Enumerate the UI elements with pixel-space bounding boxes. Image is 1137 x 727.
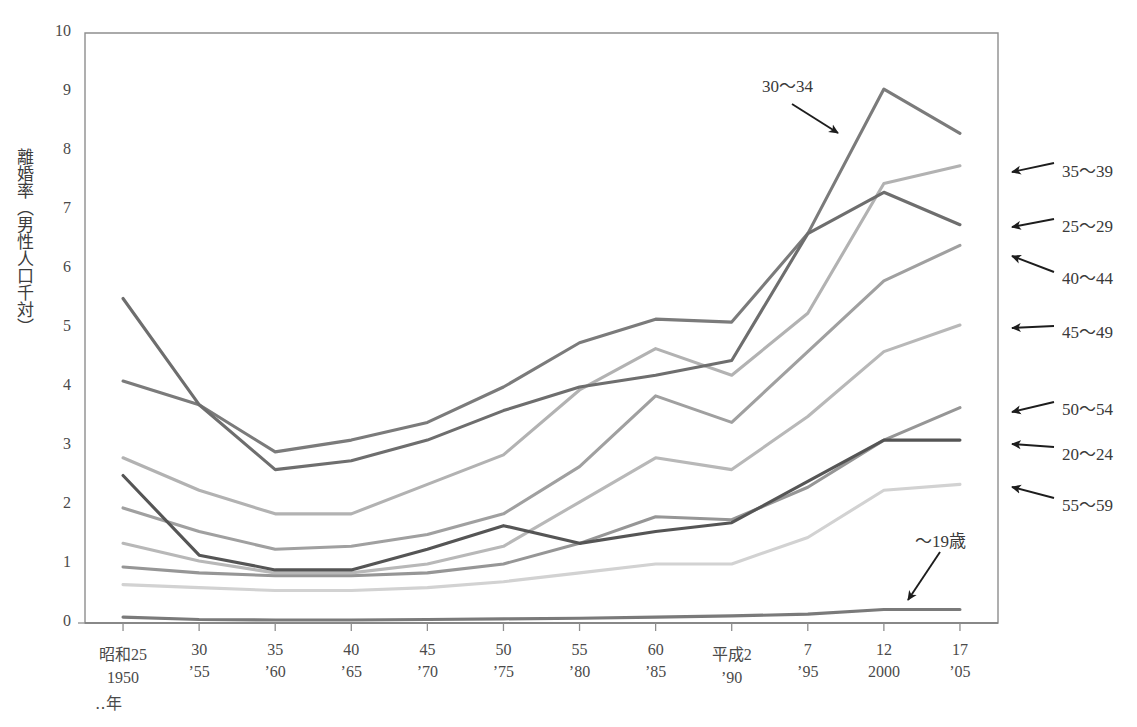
- leader-arrow: [1012, 402, 1054, 412]
- series-label-～19歳: ～19歳: [915, 527, 966, 552]
- axes-layer: [78, 33, 998, 631]
- series-label-30～34: 30～34: [762, 72, 813, 97]
- series-label-20～24: 20～24: [1062, 440, 1113, 465]
- x-tick-western-year: ’05: [915, 663, 1005, 681]
- series-label-50～54: 50～54: [1062, 395, 1113, 420]
- y-tick-label: 8: [37, 140, 71, 158]
- series-label-45～49: 45～49: [1062, 318, 1113, 343]
- y-tick-label: 3: [37, 435, 71, 453]
- x-tick-label: 17’05: [915, 641, 1005, 681]
- y-tick-label: 2: [37, 494, 71, 512]
- y-tick-label: 9: [37, 81, 71, 99]
- leader-arrow: [908, 552, 940, 600]
- chart-canvas: [0, 0, 1137, 727]
- leader-arrow: [1012, 444, 1054, 447]
- series-layer: [123, 89, 960, 620]
- divorce-rate-line-chart: 離婚率（男性人口千対） 012345678910 昭和25195030’5535…: [0, 0, 1137, 727]
- annotation-layer: [792, 104, 1054, 600]
- series-line: [123, 609, 960, 620]
- series-label-40～44: 40～44: [1062, 264, 1113, 289]
- y-tick-label: 5: [37, 317, 71, 335]
- series-line: [123, 192, 960, 469]
- series-label-35～39: 35～39: [1062, 157, 1113, 182]
- y-tick-label: 0: [37, 612, 71, 630]
- y-tick-label: 1: [37, 553, 71, 571]
- series-label-25～29: 25～29: [1062, 212, 1113, 237]
- leader-arrow: [1012, 256, 1054, 272]
- leader-arrow: [792, 104, 838, 133]
- y-tick-label: 10: [37, 22, 71, 40]
- leader-arrow: [1012, 487, 1054, 498]
- leader-arrow: [1012, 163, 1054, 172]
- leader-arrow: [1012, 219, 1054, 227]
- y-tick-label: 4: [37, 376, 71, 394]
- y-tick-label: 7: [37, 199, 71, 217]
- y-tick-label: 6: [37, 258, 71, 276]
- leader-arrow: [1012, 326, 1054, 328]
- axis-note: ‥年: [95, 690, 122, 714]
- x-tick-era: 17: [915, 641, 1005, 659]
- series-label-55～59: 55～59: [1062, 491, 1113, 516]
